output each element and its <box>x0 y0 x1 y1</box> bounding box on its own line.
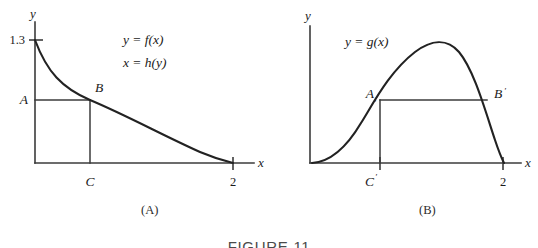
panel-b-curve-g <box>312 42 504 163</box>
panel-b-subcaption: (B) <box>419 203 436 218</box>
panel-a-x-tick-label: 2 <box>230 175 236 189</box>
panel-b-plot: y x 2 A ′ B ′ C ′ y = g(x) <box>269 0 538 200</box>
panel-a-label-a: A <box>19 92 29 107</box>
panel-b-x-tick-label: 2 <box>500 175 506 189</box>
panel-b-label-c-prime: ′ <box>375 172 378 182</box>
panel-b-label-c: C <box>365 174 375 189</box>
panel-a-plot: y x 1.3 2 A B C y = f(x) x = h(y) <box>0 0 269 200</box>
panel-a-x-axis-label: x <box>257 155 264 170</box>
panel-a-subcaption: (A) <box>141 203 158 218</box>
panel-b-equation-y-g-x: y = g(x) <box>343 34 389 49</box>
panel-b-label-a-prime: ′ <box>374 98 377 108</box>
panel-a-label-c: C <box>85 174 95 189</box>
figure-caption: FIGURE 11 <box>0 238 538 248</box>
panel-a-equation-x-h-y: x = h(y) <box>122 55 167 70</box>
panel-a-equation-y-f-x: y = f(x) <box>121 32 164 47</box>
panel-b-label-b: B <box>494 86 502 101</box>
panel-a-label-b: B <box>95 80 103 95</box>
panel-b-label-b-prime: ′ <box>504 86 507 96</box>
panel-b-y-axis-label: y <box>303 8 311 23</box>
figure-container: y x 1.3 2 A B C y = f(x) x = h(y) y x 2 <box>0 0 538 248</box>
panel-a-y-tick-label: 1.3 <box>9 33 25 47</box>
panel-b-x-axis-label: x <box>524 155 531 170</box>
panel-a-y-axis-label: y <box>28 6 36 21</box>
